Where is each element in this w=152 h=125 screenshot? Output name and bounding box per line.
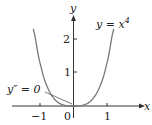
y-axis-label: y xyxy=(69,2,77,15)
tick-label-y-2: 2 xyxy=(63,33,70,46)
x-axis-label: x xyxy=(144,100,151,113)
tick-label-y-1: 1 xyxy=(64,66,71,79)
tick-label-x-neg1: −1 xyxy=(31,110,47,123)
curve-label-exponent: 4 xyxy=(124,16,130,25)
annotation-label: y″ = 0 xyxy=(6,83,41,96)
chart: y x 2 1 −1 0 1 y = x4 y″ = 0 xyxy=(0,0,152,125)
tick-label-x-1: 1 xyxy=(104,110,111,123)
tick-label-x-0: 0 xyxy=(64,110,71,123)
curve-label-main: y = x xyxy=(95,18,125,31)
curve-label: y = x4 xyxy=(95,16,130,31)
y-axis-arrow-icon xyxy=(71,15,76,21)
